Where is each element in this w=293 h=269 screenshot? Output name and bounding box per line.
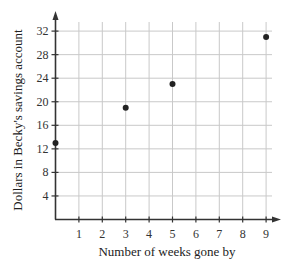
y-tick-label: 20 bbox=[37, 95, 49, 109]
x-axis-arrow-icon bbox=[272, 217, 281, 223]
y-tick-label: 32 bbox=[37, 24, 49, 38]
y-tick-label: 28 bbox=[37, 48, 49, 62]
gridlines bbox=[56, 22, 273, 220]
y-tick-label: 12 bbox=[37, 142, 49, 156]
x-tick-label: 6 bbox=[193, 227, 199, 241]
x-tick-label: 2 bbox=[99, 227, 105, 241]
axes bbox=[53, 11, 282, 223]
x-tick-label: 3 bbox=[123, 227, 129, 241]
scatter-chart: 12345678948121620242832 Number of weeks … bbox=[0, 0, 293, 269]
data-point bbox=[123, 105, 129, 111]
x-tick-label: 7 bbox=[216, 227, 222, 241]
x-axis-label: Number of weeks gone by bbox=[98, 244, 236, 259]
x-tick-label: 8 bbox=[240, 227, 246, 241]
x-tick-label: 4 bbox=[146, 227, 152, 241]
y-tick-label: 8 bbox=[43, 165, 49, 179]
ticks: 12345678948121620242832 bbox=[37, 24, 270, 240]
x-tick-label: 9 bbox=[263, 227, 269, 241]
data-points bbox=[53, 34, 270, 146]
data-point bbox=[170, 81, 176, 87]
chart-canvas: 12345678948121620242832 Number of weeks … bbox=[0, 0, 293, 269]
y-tick-label: 24 bbox=[37, 71, 49, 85]
y-axis-arrow-icon bbox=[53, 11, 59, 20]
y-tick-label: 4 bbox=[43, 189, 49, 203]
data-point bbox=[53, 140, 59, 146]
y-axis-label: Dollars in Becky's savings account bbox=[10, 29, 25, 211]
y-tick-label: 16 bbox=[37, 118, 49, 132]
data-point bbox=[263, 34, 269, 40]
x-tick-label: 5 bbox=[170, 227, 176, 241]
x-tick-label: 1 bbox=[76, 227, 82, 241]
